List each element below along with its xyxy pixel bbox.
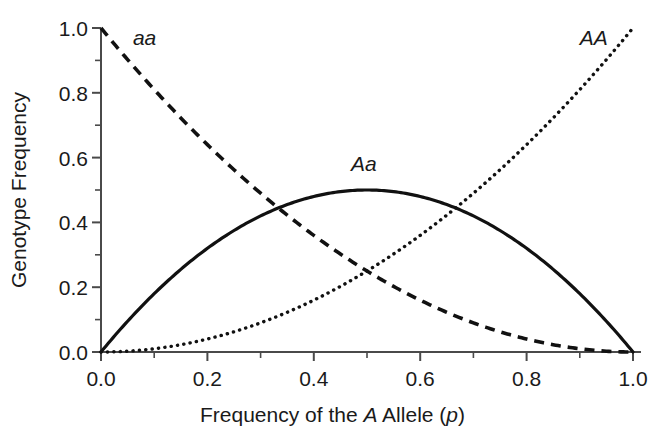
x-tick-label: 0.4 [279, 368, 349, 389]
x-tick-label: 0.8 [492, 368, 562, 389]
curve-label-AA: AA [580, 27, 608, 48]
x-axis-title-allele-symbol: A [363, 403, 377, 426]
curve-label-aa: aa [133, 27, 156, 48]
y-tick-label: 0.8 [30, 83, 88, 104]
y-tick-label: 1.0 [30, 18, 88, 39]
x-tick-label: 0.2 [172, 368, 242, 389]
y-axis-title: Genotype Frequency [8, 0, 34, 380]
y-tick-label: 0.0 [30, 342, 88, 363]
y-axis-ticks [92, 28, 101, 352]
curve-label-Aa: Aa [351, 153, 377, 174]
x-axis-ticks [101, 352, 633, 361]
y-tick-label: 0.6 [30, 148, 88, 169]
hardy-weinberg-genotype-frequency-chart: 1.00.80.60.40.20.0 0.00.20.40.60.81.0 aa… [0, 0, 665, 438]
data-curves [101, 28, 633, 352]
y-tick-label: 0.2 [30, 277, 88, 298]
x-axis-title: Frequency of the A Allele (p) [0, 404, 665, 425]
y-tick-label: 0.4 [30, 212, 88, 233]
x-tick-label: 0.6 [385, 368, 455, 389]
x-tick-label: 0.0 [66, 368, 136, 389]
x-axis-title-pre: Frequency of the [200, 403, 363, 426]
x-axis-title-mid: Allele ( [377, 403, 446, 426]
x-axis-title-post: ) [458, 403, 465, 426]
x-axis-title-parameter-symbol: p [446, 403, 458, 426]
x-tick-label: 1.0 [598, 368, 665, 389]
